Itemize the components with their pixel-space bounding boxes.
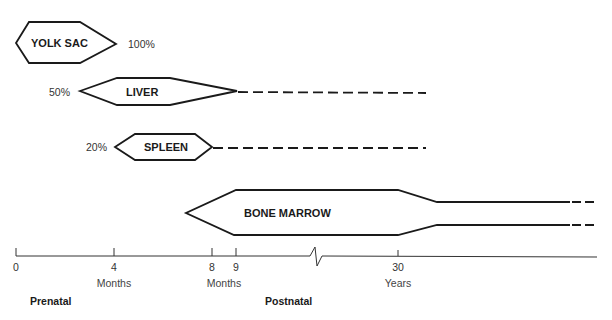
spleen-band: SPLEEN 20%: [86, 134, 426, 160]
unit-label-months-postnatal: Months: [207, 277, 241, 289]
hematopoiesis-diagram: YOLK SAC 100% LIVER 50% SPLEEN 20% BONE …: [0, 0, 612, 320]
spleen-label: SPLEEN: [144, 141, 188, 153]
unit-label-months-prenatal: Months: [97, 277, 131, 289]
tick-label-8: 8: [209, 261, 215, 273]
tick-label-4: 4: [111, 261, 117, 273]
tick-label-0: 0: [13, 261, 19, 273]
tick-label-9: 9: [233, 261, 239, 273]
bone-marrow-band: BONE MARROW: [186, 190, 598, 235]
liver-continuation-dashed-line: [238, 92, 426, 93]
axis-line-postnatal-segment: [322, 256, 597, 257]
tick-label-30: 30: [392, 261, 404, 273]
unit-label-years: Years: [385, 277, 411, 289]
axis-break-icon: [310, 247, 322, 266]
spleen-percent: 20%: [86, 141, 107, 153]
bone-marrow-label: BONE MARROW: [244, 207, 331, 219]
phase-label-prenatal: Prenatal: [30, 295, 72, 307]
liver-percent: 50%: [49, 86, 70, 98]
yolk-sac-percent: 100%: [128, 38, 155, 50]
yolk-sac-band: YOLK SAC 100%: [16, 22, 155, 63]
liver-band: LIVER 50%: [49, 78, 426, 105]
phase-label-postnatal: Postnatal: [265, 295, 312, 307]
yolk-sac-label: YOLK SAC: [31, 37, 88, 49]
liver-shape: [80, 78, 237, 105]
liver-label: LIVER: [126, 86, 158, 98]
time-axis: 0 4 8 9 30 Months Months Years Prenatal …: [13, 247, 597, 307]
